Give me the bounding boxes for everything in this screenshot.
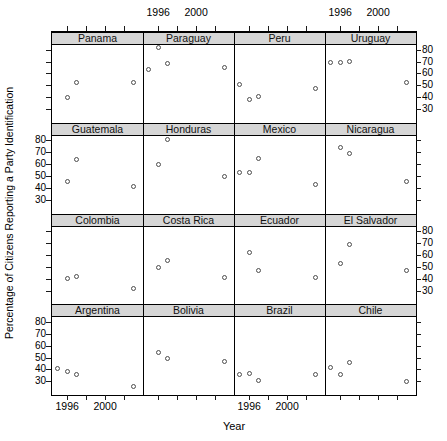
y-tick-label: 80 [19, 317, 46, 327]
x-tick [215, 26, 216, 31]
data-point-ecuador-2003 [313, 275, 318, 280]
strip-panama: Panama [52, 33, 143, 44]
data-point-el-salvador-1997 [347, 242, 352, 247]
data-point-uruguay-2003 [404, 80, 409, 85]
strip-costa-rica: Costa Rica [143, 215, 234, 226]
x-tick [177, 395, 178, 400]
y-tick-label: 80 [422, 45, 444, 55]
panel-mexico [234, 136, 325, 214]
x-axis-title: Year [52, 420, 416, 432]
y-tick [46, 279, 51, 280]
y-tick-label: 60 [422, 68, 444, 78]
strip-nicaragua: Nicaragua [325, 124, 416, 135]
data-point-nicaragua-1996 [338, 145, 343, 150]
y-tick [416, 255, 421, 256]
data-point-el-salvador-2003 [404, 268, 409, 273]
strip-bolivia: Bolivia [143, 305, 234, 316]
y-tick [416, 381, 421, 382]
y-tick-label: 50 [19, 171, 46, 181]
y-tick [46, 73, 51, 74]
x-tick [124, 26, 125, 31]
strip-chile: Chile [325, 305, 416, 316]
y-tick [416, 188, 421, 189]
y-tick [416, 109, 421, 110]
data-point-panama-1997 [74, 80, 79, 85]
data-point-nicaragua-2003 [404, 179, 409, 184]
x-tick [86, 395, 87, 400]
y-tick [46, 188, 51, 189]
data-point-mexico-2003 [313, 182, 318, 187]
x-tick [158, 395, 159, 400]
y-tick-label: 70 [19, 329, 46, 339]
x-tick [340, 395, 341, 400]
y-tick-label: 70 [422, 57, 444, 67]
x-tick [177, 26, 178, 31]
y-tick [416, 73, 421, 74]
x-tick [306, 395, 307, 400]
y-tick [46, 164, 51, 165]
x-tick-label: 2000 [88, 401, 122, 411]
y-tick [416, 85, 421, 86]
x-tick [397, 395, 398, 400]
data-point-uruguay-1997 [347, 59, 352, 64]
y-tick [416, 279, 421, 280]
strip-brazil: Brazil [234, 305, 325, 316]
panel-uruguay [325, 45, 416, 123]
y-tick [46, 381, 51, 382]
y-tick [46, 267, 51, 268]
column-separator [325, 32, 326, 395]
strip-colombia: Colombia [52, 215, 143, 226]
y-tick [416, 291, 421, 292]
x-tick [86, 26, 87, 31]
y-tick [416, 334, 421, 335]
data-point-chile-1997 [347, 360, 352, 365]
panel-chile [325, 317, 416, 395]
x-tick [196, 395, 197, 400]
y-tick-label: 70 [422, 238, 444, 248]
trellis-figure: Percentage of Citizens Reporting a Party… [0, 0, 447, 441]
x-tick [378, 26, 379, 31]
data-point-guatemala-1996 [65, 179, 70, 184]
y-tick-label: 70 [19, 147, 46, 157]
panel-colombia [52, 227, 143, 305]
data-point-colombia-2003 [131, 286, 136, 291]
data-point-honduras-1997 [165, 137, 170, 142]
data-point-argentina-2003 [131, 384, 136, 389]
y-tick [46, 200, 51, 201]
y-tick [416, 243, 421, 244]
y-tick [416, 152, 421, 153]
panel-costa-rica [143, 227, 234, 305]
y-tick-label: 80 [422, 226, 444, 236]
panel-grid: PanamaParaguayPeruUruguayGuatemalaHondur… [51, 31, 417, 396]
y-tick-label: 60 [19, 159, 46, 169]
y-tick [416, 140, 421, 141]
data-point-brazil-1995 [237, 372, 242, 377]
y-tick [416, 62, 421, 63]
data-point-honduras-1996 [156, 162, 161, 167]
panel-honduras [143, 136, 234, 214]
data-point-chile-1995 [328, 365, 333, 370]
data-point-bolivia-1997 [165, 356, 170, 361]
y-tick [46, 291, 51, 292]
y-tick-label: 30 [19, 376, 46, 386]
panel-panama [52, 45, 143, 123]
x-tick [359, 26, 360, 31]
y-tick [46, 322, 51, 323]
y-tick [416, 267, 421, 268]
y-tick [46, 109, 51, 110]
data-point-paraguay-2003 [222, 65, 227, 70]
y-tick-label: 80 [19, 135, 46, 145]
data-point-brazil-2003 [313, 372, 318, 377]
data-point-ecuador-1997 [256, 268, 261, 273]
data-point-colombia-1996 [65, 276, 70, 281]
x-tick [340, 26, 341, 31]
strip-el-salvador: El Salvador [325, 215, 416, 226]
y-tick [416, 200, 421, 201]
data-point-brazil-1997 [256, 378, 261, 383]
y-tick-label: 40 [422, 92, 444, 102]
column-separator [143, 32, 144, 395]
y-axis-title: Percentage of Citizens Reporting a Party… [3, 43, 17, 383]
data-point-peru-1997 [256, 94, 261, 99]
y-tick-label: 50 [422, 80, 444, 90]
y-tick [46, 255, 51, 256]
